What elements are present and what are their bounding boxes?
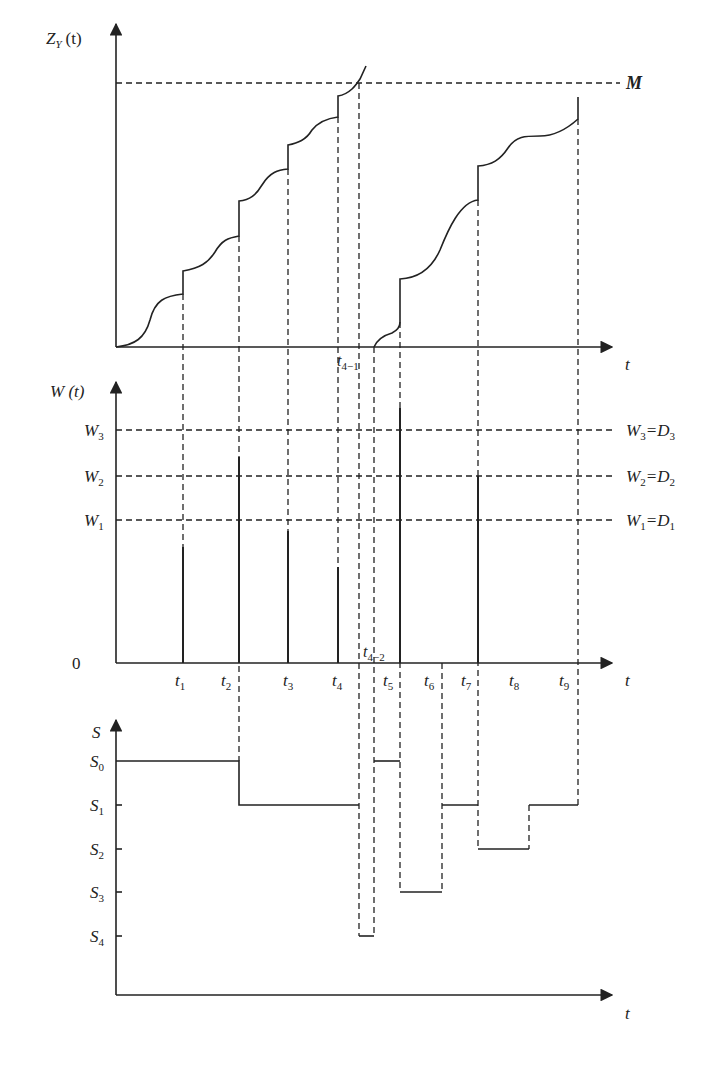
t1-label: t1 — [175, 671, 185, 692]
w-x-label: t — [625, 671, 631, 690]
t4-2-label: t4−2 — [363, 643, 385, 663]
s0-label: S0 — [90, 752, 105, 773]
t3-label: t3 — [283, 671, 294, 692]
s2-label: S2 — [90, 840, 104, 861]
t4-label: t4 — [332, 671, 343, 692]
zy-x-label: t — [625, 355, 631, 374]
w-zero-label: 0 — [72, 654, 81, 673]
t9-label: t9 — [559, 671, 570, 692]
t5-label: t5 — [383, 671, 394, 692]
s4-label: S4 — [90, 927, 105, 948]
threshold-m-label: M — [625, 73, 643, 93]
zy-axis-label: ZY(t) — [46, 29, 82, 50]
t6-label: t6 — [424, 671, 435, 692]
s-panel: S t S0 S1 S2 S3 S4 — [90, 720, 631, 1023]
w-panel: W (t) 0 t W3 W2 W1 W3=D3 W2=D2 W1=D1 t1 … — [50, 382, 675, 692]
w-axis-label: W (t) — [50, 382, 85, 401]
w2-d2-label: W2=D2 — [626, 467, 675, 488]
zy-curve-1 — [116, 66, 366, 347]
w2-left-label: W2 — [84, 467, 104, 488]
w3-left-label: W3 — [84, 421, 104, 442]
s-axis-label: S — [92, 723, 101, 742]
zy-panel: ZY(t) t M t4−1 — [46, 24, 643, 936]
t8-label: t8 — [509, 671, 520, 692]
s-x-label: t — [625, 1004, 631, 1023]
w1-d1-label: W1=D1 — [626, 511, 675, 532]
w3-d3-label: W3=D3 — [626, 421, 675, 442]
s1-label: S1 — [90, 796, 104, 817]
t7-label: t7 — [461, 671, 472, 692]
w1-left-label: W1 — [84, 511, 104, 532]
diagram-canvas: ZY(t) t M t4−1 W (t) 0 t — [0, 0, 717, 1065]
s3-label: S3 — [90, 883, 105, 904]
t4-1-label: t4−1 — [337, 352, 359, 372]
zy-curve-2 — [374, 97, 578, 347]
t2-label: t2 — [221, 671, 231, 692]
state-segment-s0-s1 — [116, 761, 359, 805]
